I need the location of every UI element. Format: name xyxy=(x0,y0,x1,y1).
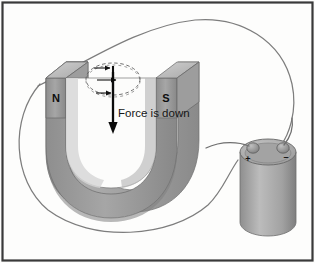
battery-negative-label: – xyxy=(283,152,288,162)
force-caption: Force is down xyxy=(118,107,190,119)
battery-positive-label: + xyxy=(245,154,250,164)
figure-canvas: N S Force is down xyxy=(0,0,315,263)
north-pole-label: N xyxy=(52,92,60,104)
physics-figure: N S Force is down xyxy=(0,0,315,263)
battery: + – xyxy=(240,139,296,236)
battery-positive-terminal xyxy=(247,143,259,153)
south-pole-label: S xyxy=(162,92,169,104)
